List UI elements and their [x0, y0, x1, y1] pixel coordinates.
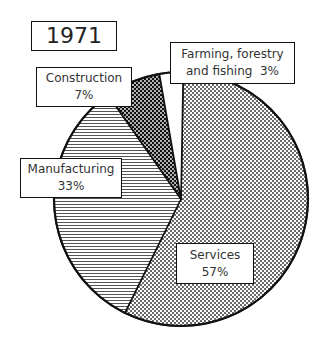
label-construction-value: 7%	[37, 87, 131, 104]
chart-title: 1971	[31, 21, 117, 51]
label-farming-name: Farming, forestry	[171, 46, 294, 63]
label-construction-name: Construction	[37, 70, 131, 87]
label-manufacturing: Manufacturing 33%	[20, 158, 122, 198]
label-manufacturing-name: Manufacturing	[21, 161, 121, 178]
label-services-value: 57%	[177, 264, 253, 281]
label-manufacturing-value: 33%	[21, 178, 121, 195]
label-construction: Construction 7%	[36, 67, 132, 107]
label-farming-value: and fishing 3%	[171, 63, 294, 80]
label-services-name: Services	[177, 247, 253, 264]
label-services: Services 57%	[176, 243, 254, 284]
label-farming: Farming, forestry and fishing 3%	[170, 42, 295, 84]
